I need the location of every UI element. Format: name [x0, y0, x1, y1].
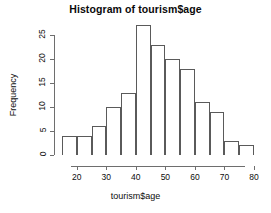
x-axis-tick-label: 50: [153, 172, 177, 182]
histogram-bar: [180, 69, 195, 155]
histogram-bars: [62, 25, 254, 155]
y-axis-tick-label: 0: [0, 149, 46, 159]
histogram-bar: [224, 141, 239, 155]
y-axis-tick-label: 25: [0, 29, 46, 39]
y-axis-tick: [50, 155, 54, 156]
histogram-bar: [106, 107, 121, 155]
x-axis-tick: [165, 166, 166, 170]
y-axis-line: [54, 35, 55, 155]
histogram-bar: [151, 45, 166, 155]
x-axis-tick-label: 80: [242, 172, 266, 182]
histogram-bar: [77, 136, 92, 155]
plot-area: [62, 25, 254, 155]
histogram-figure: Histogram of tourism$age Frequency 05101…: [0, 0, 271, 213]
y-axis-tick-label: 20: [0, 53, 46, 63]
histogram-bar: [165, 59, 180, 155]
y-axis-tick: [50, 35, 54, 36]
page-title: Histogram of tourism$age: [0, 3, 271, 15]
x-axis-tick: [106, 166, 107, 170]
x-axis-tick-label: 70: [212, 172, 236, 182]
x-axis-tick: [224, 166, 225, 170]
x-axis-tick-label: 40: [124, 172, 148, 182]
histogram-bar: [92, 126, 107, 155]
histogram-bar: [239, 145, 254, 155]
x-axis-tick-label: 60: [183, 172, 207, 182]
x-axis-line: [71, 166, 245, 167]
y-axis-tick: [50, 83, 54, 84]
y-axis-tick: [50, 59, 54, 60]
histogram-bar: [136, 25, 151, 155]
histogram-bar: [210, 112, 225, 155]
x-axis-tick-label: 20: [65, 172, 89, 182]
y-axis-tick: [50, 107, 54, 108]
x-axis-tick: [254, 166, 255, 170]
histogram-bar: [121, 93, 136, 155]
histogram-bar: [195, 102, 210, 155]
x-axis-tick-label: 30: [94, 172, 118, 182]
x-axis-tick: [77, 166, 78, 170]
y-axis-tick-label: 10: [0, 101, 46, 111]
y-axis-tick-label: 15: [0, 77, 46, 87]
x-axis-tick: [195, 166, 196, 170]
x-axis-title: tourism$age: [0, 191, 271, 201]
x-axis-tick: [136, 166, 137, 170]
histogram-bar: [62, 136, 77, 155]
y-axis-tick: [50, 131, 54, 132]
y-axis-tick-label: 5: [0, 125, 46, 135]
